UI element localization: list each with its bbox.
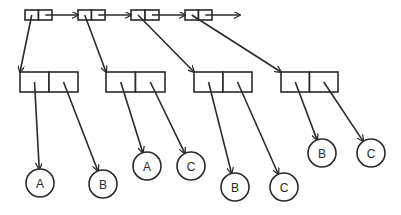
- pair-cell: [281, 72, 338, 92]
- element-pointer-arrow: [64, 82, 98, 171]
- car-pointer-arrow: [192, 15, 281, 72]
- atom-node-b: B: [89, 170, 117, 198]
- node-label: C: [187, 160, 196, 174]
- node-label: C: [280, 181, 289, 195]
- atom-node-c: C: [357, 139, 385, 167]
- atom-node-c: C: [177, 152, 205, 180]
- atom-node-b: B: [308, 139, 336, 167]
- atom-node-a: A: [133, 152, 161, 180]
- pair-cell: [194, 72, 252, 92]
- pair-cell: [20, 72, 78, 92]
- atom-node-a: A: [26, 169, 54, 197]
- car-pointer-arrow: [85, 15, 106, 72]
- element-pointer-arrow: [35, 82, 40, 169]
- node-label: A: [143, 160, 151, 174]
- element-pointer-arrow: [324, 82, 363, 141]
- element-pointer-arrow: [209, 82, 232, 173]
- car-pointer-arrow: [20, 15, 32, 72]
- car-pointer-arrow: [138, 15, 194, 72]
- element-pointer-arrow: [238, 82, 279, 174]
- atom-nodes: ABACBCBC: [26, 139, 385, 201]
- atom-node-b: B: [221, 173, 249, 201]
- element-pointer-arrow: [150, 82, 185, 153]
- pair-right-cell: [49, 72, 78, 92]
- linked-list-diagram: ABACBCBC: [0, 0, 401, 215]
- node-label: B: [231, 181, 239, 195]
- node-label: A: [36, 177, 44, 191]
- atom-node-c: C: [270, 173, 298, 201]
- node-label: C: [367, 147, 376, 161]
- node-label: B: [99, 178, 107, 192]
- pair-cells: [20, 72, 338, 92]
- pair-cell: [106, 72, 165, 92]
- node-label: B: [318, 147, 326, 161]
